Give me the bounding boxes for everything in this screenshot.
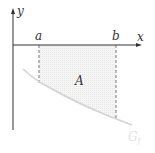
a-label: a bbox=[35, 29, 42, 43]
x-axis-label: x bbox=[137, 30, 144, 44]
y-axis-label: y bbox=[16, 4, 24, 18]
y-axis-arrow-icon bbox=[11, 8, 15, 14]
area-label: A bbox=[74, 74, 84, 88]
curve-label: Gf bbox=[128, 130, 143, 145]
b-label: b bbox=[112, 29, 120, 43]
area-under-curve-diagram: y x a b A Gf bbox=[0, 0, 155, 153]
